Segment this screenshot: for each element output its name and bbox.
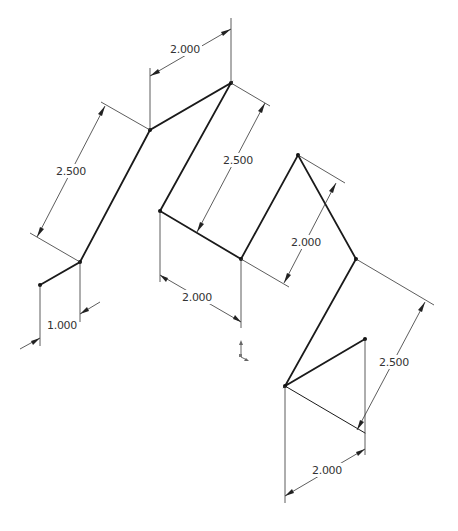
dimension-label: 2.500	[223, 154, 253, 167]
dimension-right-2000[interactable]: 2.000	[241, 155, 345, 287]
sketch-vertices	[38, 81, 367, 388]
dimension-right-2500[interactable]: 2.500	[356, 259, 434, 430]
dimension-label: 2.000	[312, 464, 342, 477]
dimension-bottom-left-1000[interactable]: 1.000	[20, 262, 100, 349]
dimension-label: 1.000	[47, 319, 77, 332]
dimension-center-2500[interactable]: 2.500	[197, 83, 270, 232]
sketch-geometry	[40, 83, 365, 433]
dimension-left-2500[interactable]: 2.500	[30, 102, 150, 262]
drawing-canvas[interactable]: 2.000 2.500 1.000 2.500 2.000	[0, 0, 458, 531]
dimension-label: 2.000	[170, 43, 200, 56]
dimension-center-2000[interactable]: 2.000	[160, 211, 241, 328]
coordinate-axes-icon	[239, 340, 249, 361]
dimension-label: 2.500	[56, 165, 86, 178]
dimension-label: 2.000	[182, 291, 212, 304]
dimension-label: 2.500	[379, 356, 409, 369]
dimension-top-2000[interactable]: 2.000	[150, 18, 231, 130]
dimension-label: 2.000	[291, 236, 321, 249]
